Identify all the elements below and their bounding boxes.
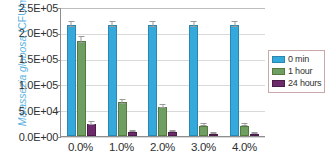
bar[interactable] <box>77 41 86 136</box>
x-axis-tick-label: 0.0% <box>60 141 101 153</box>
error-bar <box>234 21 235 27</box>
error-bar <box>81 36 82 42</box>
legend-item[interactable]: 0 min <box>272 54 322 65</box>
bar[interactable] <box>240 126 249 136</box>
legend-item[interactable]: 24 hours <box>272 78 322 89</box>
plot-area <box>60 8 265 137</box>
error-bar <box>91 121 92 125</box>
error-bar <box>71 21 72 27</box>
error-bar <box>203 123 204 126</box>
y-axis-tick-label: 5.0E+04 <box>2 106 58 117</box>
error-bar <box>122 99 123 103</box>
legend-item-label: 0 min <box>288 55 309 64</box>
bar-group <box>224 8 265 136</box>
x-axis-tick-label: 2.0% <box>142 141 183 153</box>
error-bar <box>172 130 173 133</box>
bar[interactable] <box>199 126 208 136</box>
bar[interactable] <box>67 25 76 136</box>
y-axis-tick-label: 2.5E+05 <box>2 3 58 14</box>
y-axis-tick-label: 1.5E+05 <box>2 54 58 65</box>
bar-groups <box>61 8 265 136</box>
error-bar <box>254 132 255 134</box>
bar[interactable] <box>158 107 167 136</box>
legend-swatch-icon <box>272 56 285 63</box>
x-axis-tick-label: 4.0% <box>224 141 265 153</box>
bar-group <box>183 8 224 136</box>
y-axis-tick-labels: 0.0E+005.0E+041.0E+051.5E+052.0E+052.5E+… <box>0 0 58 163</box>
error-bar <box>132 130 133 133</box>
legend-item[interactable]: 1 hour <box>272 66 322 77</box>
error-bar <box>152 21 153 27</box>
bar[interactable] <box>87 124 96 136</box>
bar[interactable] <box>189 25 198 136</box>
bar-group <box>143 8 184 136</box>
chart-legend: 0 min1 hour24 hours <box>268 50 325 93</box>
legend-swatch-icon <box>272 68 285 75</box>
bar[interactable] <box>128 132 137 136</box>
x-axis-tick-labels: 0.0%1.0%2.0%3.0%4.0% <box>60 141 265 153</box>
bar[interactable] <box>108 25 117 136</box>
chart-figure: Malassezia globosa (CFU/mL) 0.0E+005.0E+… <box>0 0 327 163</box>
error-bar <box>112 21 113 27</box>
error-bar <box>213 132 214 134</box>
legend-item-label: 24 hours <box>288 79 321 88</box>
bar[interactable] <box>148 25 157 136</box>
y-axis-tick-label: 0.0E+00 <box>2 132 58 143</box>
y-axis-tick-label: 2.0E+05 <box>2 28 58 39</box>
x-axis-tick-label: 1.0% <box>101 141 142 153</box>
legend-item-label: 1 hour <box>288 67 312 76</box>
bar-group <box>61 8 102 136</box>
legend-swatch-icon <box>272 80 285 87</box>
error-bar <box>162 104 163 108</box>
bar[interactable] <box>118 102 127 136</box>
y-axis-tick-mark <box>57 137 61 138</box>
bar[interactable] <box>250 134 259 136</box>
x-axis-tick-label: 3.0% <box>183 141 224 153</box>
bar[interactable] <box>209 134 218 136</box>
y-axis-tick-label: 1.0E+05 <box>2 80 58 91</box>
bar[interactable] <box>230 25 239 136</box>
bar[interactable] <box>168 132 177 136</box>
error-bar <box>244 123 245 126</box>
bar-group <box>102 8 143 136</box>
error-bar <box>193 21 194 27</box>
gridline <box>61 137 265 138</box>
